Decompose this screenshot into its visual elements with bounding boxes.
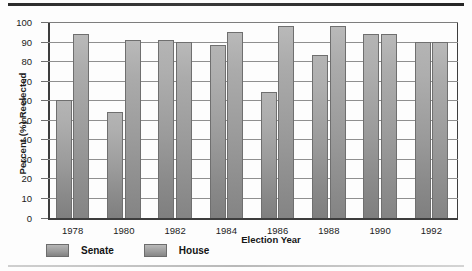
bar-house-1990 xyxy=(381,34,397,218)
y-axis-tick-label: 20 xyxy=(21,173,32,184)
y-axis-tick-label: 0 xyxy=(27,212,32,223)
y-axis-tick: 10 xyxy=(41,198,48,199)
x-axis-tick-label: 1990 xyxy=(370,225,391,236)
y-axis-tick-label: 70 xyxy=(21,75,32,86)
gridline xyxy=(42,22,458,23)
bar-senate-1990 xyxy=(363,34,379,218)
bar-house-1982 xyxy=(176,42,192,218)
y-axis-tick: 30 xyxy=(41,159,48,160)
legend-label-senate: Senate xyxy=(81,245,114,256)
bar-house-1984 xyxy=(227,32,243,218)
y-axis-tick-label: 80 xyxy=(21,56,32,67)
x-axis-tick-label: 1992 xyxy=(421,225,442,236)
bar-house-1980 xyxy=(125,40,141,218)
scan-edge-bottom xyxy=(8,265,464,267)
y-axis-tick-label: 50 xyxy=(21,114,32,125)
bar-house-1992 xyxy=(432,42,448,218)
bar-senate-1986 xyxy=(261,92,277,217)
chart-legend: Senate House xyxy=(46,244,209,257)
bar-senate-1988 xyxy=(312,55,328,217)
y-axis-tick: 100 xyxy=(41,22,48,23)
y-axis-tick: 90 xyxy=(41,42,48,43)
bar-house-1988 xyxy=(330,26,346,218)
plot-area: 0102030405060708090100 19781980198219841… xyxy=(48,22,458,219)
bar-senate-1978 xyxy=(56,100,72,217)
y-axis-tick: 20 xyxy=(41,178,48,179)
legend-swatch-house xyxy=(144,244,167,257)
y-axis-tick-label: 60 xyxy=(21,95,32,106)
y-axis-tick: 80 xyxy=(41,61,48,62)
x-axis-tick-label: 1982 xyxy=(165,225,186,236)
legend-item-house: House xyxy=(144,244,210,257)
y-axis-tick: 50 xyxy=(41,120,48,121)
bar-senate-1984 xyxy=(210,45,226,217)
bar-house-1978 xyxy=(73,34,89,218)
y-axis-tick-label: 100 xyxy=(16,17,32,28)
y-axis-tick: 40 xyxy=(41,139,48,140)
bar-senate-1982 xyxy=(158,40,174,218)
y-axis-tick: 0 xyxy=(41,218,48,219)
x-axis-line xyxy=(48,218,458,220)
legend-swatch-senate xyxy=(46,244,69,257)
bar-senate-1980 xyxy=(107,112,123,218)
x-axis-tick-label: 1980 xyxy=(113,225,134,236)
scan-edge-top xyxy=(8,3,464,6)
y-axis-tick-label: 90 xyxy=(21,36,32,47)
legend-item-senate: Senate xyxy=(46,244,114,257)
bar-house-1986 xyxy=(278,26,294,218)
y-axis-tick-label: 40 xyxy=(21,134,32,145)
chart-figure: Percent (%) Reelected 010203040506070809… xyxy=(0,0,472,271)
y-axis-tick-label: 30 xyxy=(21,153,32,164)
bar-senate-1992 xyxy=(415,42,431,218)
y-axis-tick-label: 10 xyxy=(21,192,32,203)
x-axis-title: Election Year xyxy=(196,234,346,245)
y-axis-tick: 70 xyxy=(41,81,48,82)
legend-label-house: House xyxy=(179,245,210,256)
y-axis-tick: 60 xyxy=(41,100,48,101)
x-axis-tick-label: 1978 xyxy=(62,225,83,236)
